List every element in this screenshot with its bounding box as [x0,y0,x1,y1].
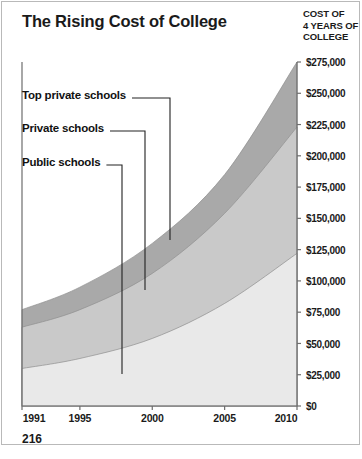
y-tick-label: $75,000 [306,307,340,318]
leader-line-top_private [132,98,170,240]
x-tick-label: 1995 [69,412,92,424]
x-tick-label: 2000 [141,412,164,424]
callout-label-private: Private schools [22,122,104,134]
y-tick-label: $50,000 [306,338,340,349]
y-tick-label: $250,000 [306,88,345,99]
chart-figure: The Rising Cost of College COST OF 4 YEA… [0,0,362,459]
y-tick-label: $0 [306,401,317,412]
y-tick-label: $200,000 [306,150,345,161]
page-number: 216 [22,432,42,446]
y-tick-label: $175,000 [306,182,345,193]
callout-label-public: Public schools [22,156,100,168]
x-tick-label: 2010 [275,412,298,424]
y-tick-label: $225,000 [306,119,345,130]
chart-area-bands [22,62,297,406]
x-tick-label: 1991 [23,412,46,424]
y-tick-label: $150,000 [306,213,345,224]
y-tick-label: $125,000 [306,244,345,255]
y-tick-label: $25,000 [306,369,340,380]
y-tick-label: $100,000 [306,275,345,286]
chart-plot-area [0,0,362,459]
x-tick-label: 2005 [213,412,236,424]
y-tick-label: $275,000 [306,57,345,68]
callout-label-top_private: Top private schools [22,89,126,101]
